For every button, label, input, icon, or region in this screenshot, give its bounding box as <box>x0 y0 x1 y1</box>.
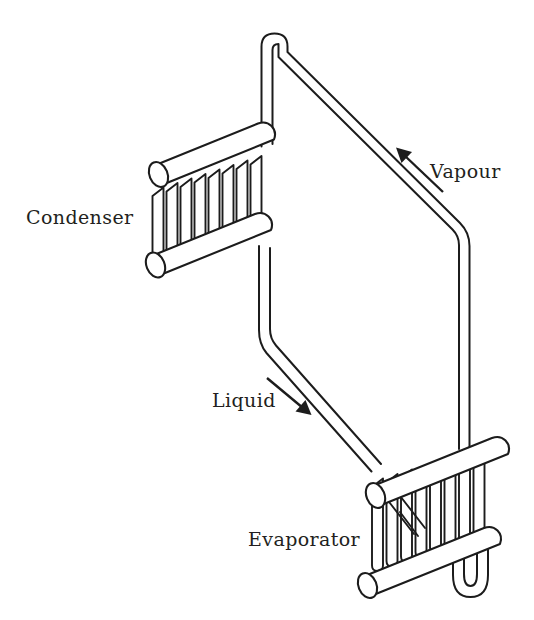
liquid-line <box>259 246 381 472</box>
vapour-label: Vapour <box>430 160 501 182</box>
liquid-label: Liquid <box>212 389 276 411</box>
condenser-label: Condenser <box>26 206 134 228</box>
condenser-coil <box>142 122 275 280</box>
diagram-canvas: Condenser Evaporator Vapour Liquid <box>0 0 534 620</box>
thermosyphon-diagram <box>0 0 534 620</box>
vapour-line <box>262 34 470 453</box>
evaporator-label: Evaporator <box>248 528 360 550</box>
